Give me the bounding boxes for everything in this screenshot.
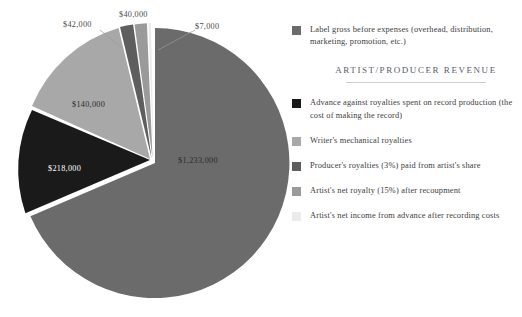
legend-item-net-royalty[interactable]: Artist's net royalty (15%) after recoupm… (292, 185, 522, 197)
pie-slices (18, 23, 289, 298)
legend-label-producer: Producer's royalties (3%) paid from arti… (310, 160, 481, 172)
legend-swatch-advance (292, 99, 301, 108)
legend: Label gross before expenses (overhead, d… (292, 24, 522, 236)
legend-item-advance[interactable]: Advance against royalties spent on recor… (292, 97, 522, 121)
legend-divider (346, 82, 486, 83)
pie-value-label-net-income: $7,000 (195, 22, 219, 31)
legend-item-mechanical[interactable]: Writer's mechanical royalties (292, 135, 522, 147)
legend-section-header: ARTIST/PRODUCER REVENUE (310, 65, 522, 75)
legend-swatch-mechanical (292, 137, 301, 146)
legend-swatch-label-gross (292, 26, 301, 35)
pie-chart-svg (0, 0, 290, 317)
legend-section: ARTIST/PRODUCER REVENUE (292, 65, 522, 83)
legend-label-mechanical: Writer's mechanical royalties (310, 135, 412, 147)
legend-item-net-income[interactable]: Artist's net income from advance after r… (292, 210, 522, 222)
pie-value-label-producer: $42,000 (63, 20, 92, 29)
pie-value-label-mechanical: $140,000 (72, 100, 105, 109)
legend-group-artist-producer: Advance against royalties spent on recor… (292, 97, 522, 222)
pie-chart-figure: $1,233,000 $218,000 $140,000 $42,000 $40… (0, 0, 522, 317)
pie-value-label-main: $1,233,000 (178, 156, 218, 165)
legend-label-label-gross: Label gross before expenses (overhead, d… (310, 24, 522, 48)
legend-item-label-gross[interactable]: Label gross before expenses (overhead, d… (292, 24, 522, 48)
legend-label-net-royalty: Artist's net royalty (15%) after recoupm… (310, 185, 461, 197)
legend-label-advance: Advance against royalties spent on recor… (310, 97, 522, 121)
pie-chart-area: $1,233,000 $218,000 $140,000 $42,000 $40… (0, 0, 290, 317)
legend-swatch-net-royalty (292, 187, 301, 196)
pie-value-label-net-royalty: $40,000 (119, 10, 148, 19)
legend-label-net-income: Artist's net income from advance after r… (310, 210, 499, 222)
legend-swatch-net-income (292, 212, 301, 221)
legend-item-producer[interactable]: Producer's royalties (3%) paid from arti… (292, 160, 522, 172)
pie-value-label-advance: $218,000 (48, 164, 81, 173)
legend-swatch-producer (292, 162, 301, 171)
